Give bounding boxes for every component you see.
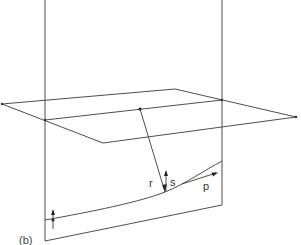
- intersection-line: [45, 100, 222, 120]
- surface-curve: [45, 161, 222, 220]
- figure-caption: (b): [19, 234, 32, 245]
- diagram-canvas: r s p (b): [0, 0, 301, 245]
- tangent-arrow-p: [182, 173, 218, 185]
- label-s: s: [170, 176, 176, 188]
- vertical-plane: [45, 0, 222, 241]
- label-p: p: [203, 180, 209, 192]
- label-r: r: [149, 177, 153, 189]
